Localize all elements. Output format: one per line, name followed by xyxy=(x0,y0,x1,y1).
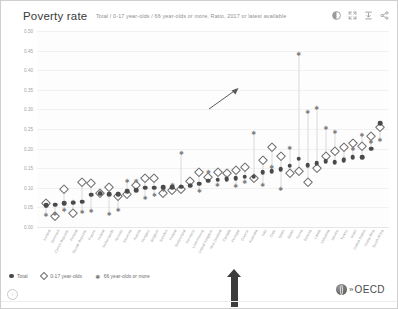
marker-old[interactable]: ✱ xyxy=(43,213,48,218)
x-axis-label: Turkey xyxy=(340,229,349,241)
marker-total[interactable] xyxy=(44,203,49,208)
marker-old[interactable]: ✱ xyxy=(79,211,84,216)
info-badge-icon[interactable]: i xyxy=(7,289,18,300)
x-axis-label: Korea xyxy=(296,229,304,240)
download-icon[interactable] xyxy=(364,11,373,20)
marker-total[interactable] xyxy=(206,178,211,183)
marker-total[interactable] xyxy=(188,184,193,189)
marker-old[interactable]: ✱ xyxy=(332,130,337,135)
legend-label: 0-17 year-olds xyxy=(50,273,82,279)
marker-total[interactable] xyxy=(152,186,157,191)
marker-old[interactable]: ✱ xyxy=(233,184,238,189)
marker-old[interactable]: ✱ xyxy=(52,213,57,218)
chart-header: Poverty rate Total / 0-17 year-olds / 66… xyxy=(1,1,398,31)
marker-old[interactable]: ✱ xyxy=(88,209,93,214)
marker-total[interactable] xyxy=(143,186,148,191)
marker-old[interactable]: ✱ xyxy=(359,133,364,138)
marker-total[interactable] xyxy=(80,199,85,204)
marker-total[interactable] xyxy=(342,158,347,163)
marker-total[interactable] xyxy=(53,202,58,207)
marker-old[interactable]: ✱ xyxy=(251,131,256,136)
marker-total[interactable] xyxy=(179,184,184,189)
marker-total[interactable] xyxy=(224,177,229,182)
marker-old[interactable]: ✱ xyxy=(61,208,66,213)
marker-old[interactable]: ✱ xyxy=(242,181,247,186)
x-axis-label: Latvia xyxy=(314,229,322,240)
marker-old[interactable]: ✱ xyxy=(206,170,211,175)
marker-total[interactable] xyxy=(287,164,292,169)
marker-old[interactable]: ✱ xyxy=(350,147,355,152)
chart-legend: Total 0-17 year-olds ✱ 66 year-olds or m… xyxy=(9,273,150,279)
marker-total[interactable] xyxy=(197,182,202,187)
y-axis-tick: 0.40 xyxy=(24,68,33,73)
marker-total[interactable] xyxy=(242,175,247,180)
chart-page: Poverty rate Total / 0-17 year-olds / 66… xyxy=(0,0,398,309)
chevron-icon: » xyxy=(349,285,352,294)
chart-subtitle: Total / 0-17 year-olds / 66 year-olds or… xyxy=(96,13,286,19)
x-axis-label: France xyxy=(87,229,96,241)
marker-total[interactable] xyxy=(278,167,283,172)
marker-old[interactable]: ✱ xyxy=(323,126,328,131)
marker-total[interactable] xyxy=(360,155,365,160)
info-icon[interactable] xyxy=(332,11,341,20)
x-axis-label: Mexico xyxy=(331,229,340,241)
marker-old[interactable]: ✱ xyxy=(215,184,220,189)
open-diamond-icon xyxy=(39,272,47,280)
marker-total[interactable] xyxy=(89,193,94,198)
marker-old[interactable]: ✱ xyxy=(368,140,373,145)
marker-old[interactable]: ✱ xyxy=(116,208,121,213)
marker-old[interactable]: ✱ xyxy=(134,179,139,184)
fullscreen-icon[interactable] xyxy=(348,11,357,20)
marker-total[interactable] xyxy=(134,188,139,193)
marker-old[interactable]: ✱ xyxy=(287,147,292,152)
marker-total[interactable] xyxy=(351,155,356,160)
marker-total[interactable] xyxy=(333,160,338,165)
x-axis-label: Ireland xyxy=(96,229,105,241)
x-axis-label: Japan xyxy=(286,229,294,240)
marker-total[interactable] xyxy=(215,177,220,182)
marker-total[interactable] xyxy=(116,192,121,197)
oecd-wordmark: OECD xyxy=(355,284,386,295)
marker-old[interactable]: ✱ xyxy=(314,107,319,112)
marker-total[interactable] xyxy=(71,200,76,205)
marker-old[interactable]: ✱ xyxy=(125,179,130,184)
y-axis-tick: 0.50 xyxy=(24,29,33,34)
marker-total[interactable] xyxy=(170,185,175,190)
marker-old[interactable]: ✱ xyxy=(143,196,148,201)
marker-old[interactable]: ✱ xyxy=(377,138,382,143)
marker-total[interactable] xyxy=(161,185,166,190)
marker-total[interactable] xyxy=(260,170,265,175)
marker-old[interactable]: ✱ xyxy=(152,193,157,198)
marker-total[interactable] xyxy=(324,159,329,164)
x-axis-label: Lithuania xyxy=(320,229,331,244)
y-axis-tick: 0.15 xyxy=(24,166,33,171)
marker-old[interactable]: ✱ xyxy=(305,111,310,116)
marker-total[interactable] xyxy=(125,189,130,194)
marker-total[interactable] xyxy=(251,175,256,180)
marker-total[interactable] xyxy=(369,146,374,151)
marker-old[interactable]: ✱ xyxy=(278,187,283,192)
marker-total[interactable] xyxy=(107,192,112,197)
marker-old[interactable]: ✱ xyxy=(197,189,202,194)
marker-total[interactable] xyxy=(296,156,301,161)
marker-old[interactable]: ✱ xyxy=(296,52,301,57)
gridline xyxy=(37,227,389,228)
x-axis-label: Finland xyxy=(69,229,78,242)
marker-total[interactable] xyxy=(378,121,383,126)
legend-item-total[interactable]: Total xyxy=(9,273,28,279)
marker-total[interactable] xyxy=(233,176,238,181)
marker-old[interactable]: ✱ xyxy=(179,151,184,156)
marker-total[interactable] xyxy=(62,201,67,206)
x-axis-label: Italy xyxy=(261,229,268,237)
marker-total[interactable] xyxy=(305,163,310,168)
share-icon[interactable] xyxy=(380,11,389,20)
marker-total[interactable] xyxy=(314,161,319,166)
filled-circle-icon xyxy=(9,274,14,279)
legend-item-old[interactable]: ✱ 66 year-olds or more xyxy=(95,273,150,279)
legend-item-young[interactable]: 0-17 year-olds xyxy=(41,273,82,279)
marker-old[interactable]: ✱ xyxy=(107,213,112,218)
marker-old[interactable]: ✱ xyxy=(260,184,265,189)
gridline xyxy=(37,70,389,71)
marker-total[interactable] xyxy=(98,191,103,196)
marker-total[interactable] xyxy=(269,169,274,174)
